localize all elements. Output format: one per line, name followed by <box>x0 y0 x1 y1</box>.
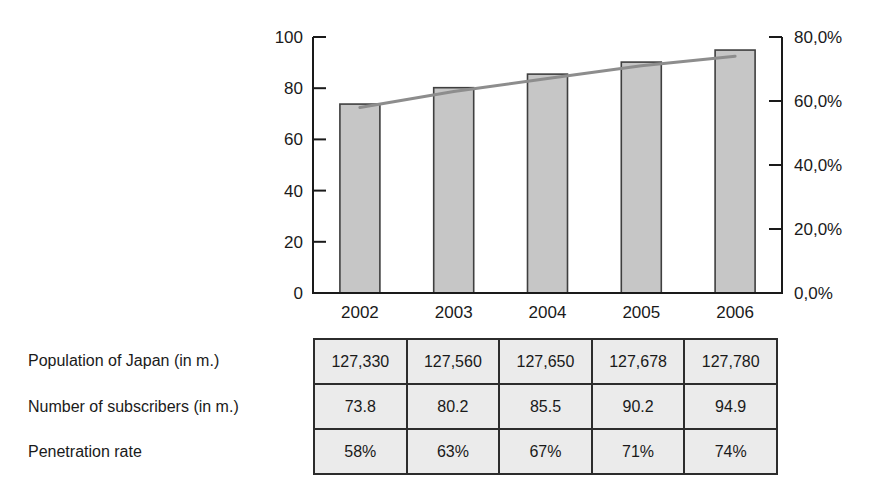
table-cell: 71% <box>592 429 685 474</box>
table-row-labels: Population of Japan (in m.) Number of su… <box>28 338 308 475</box>
table-cell: 127,678 <box>592 339 685 384</box>
table-cell: 63% <box>407 429 500 474</box>
left-axis-label: 60 <box>284 130 303 149</box>
bar-2005 <box>621 62 661 293</box>
data-table: 127,330127,560127,650127,678127,78073.88… <box>313 338 778 475</box>
right-axis-label: 60,0% <box>794 92 842 111</box>
combo-chart: 0204060801000,0%20,0%40,0%60,0%80,0%2002… <box>0 0 886 336</box>
left-axis-label: 40 <box>284 182 303 201</box>
right-axis-label: 80,0% <box>794 28 842 47</box>
year-label: 2002 <box>341 303 379 322</box>
left-axis-label: 20 <box>284 233 303 252</box>
row-label-population: Population of Japan (in m.) <box>28 338 308 384</box>
bar-2004 <box>528 74 568 293</box>
table-cell: 127,560 <box>407 339 500 384</box>
table-cell: 127,650 <box>499 339 592 384</box>
right-axis-label: 40,0% <box>794 156 842 175</box>
left-axis-label: 0 <box>294 284 303 303</box>
table-row: 127,330127,560127,650127,678127,780 <box>314 339 777 384</box>
table-cell: 127,330 <box>314 339 407 384</box>
left-axis-label: 80 <box>284 79 303 98</box>
row-label-subscribers: Number of subscribers (in m.) <box>28 384 308 430</box>
bar-2003 <box>434 88 474 293</box>
row-label-penetration: Penetration rate <box>28 429 308 475</box>
left-axis-label: 100 <box>275 28 303 47</box>
bar-2002 <box>340 104 380 293</box>
table-cell: 74% <box>684 429 777 474</box>
year-label: 2004 <box>529 303 567 322</box>
right-axis-label: 0,0% <box>794 284 833 303</box>
table-cell: 80.2 <box>407 384 500 429</box>
table-cell: 58% <box>314 429 407 474</box>
year-label: 2006 <box>716 303 754 322</box>
year-label: 2005 <box>622 303 660 322</box>
table-row: 58%63%67%71%74% <box>314 429 777 474</box>
year-label: 2003 <box>435 303 473 322</box>
table-cell: 127,780 <box>684 339 777 384</box>
table-cell: 67% <box>499 429 592 474</box>
table-cell: 73.8 <box>314 384 407 429</box>
table-cell: 85.5 <box>499 384 592 429</box>
table-cell: 94.9 <box>684 384 777 429</box>
figure-subscribers-penetration: 0204060801000,0%20,0%40,0%60,0%80,0%2002… <box>0 0 886 501</box>
table-cell: 90.2 <box>592 384 685 429</box>
table-row: 73.880.285.590.294.9 <box>314 384 777 429</box>
right-axis-label: 20,0% <box>794 220 842 239</box>
bar-2006 <box>715 50 755 293</box>
